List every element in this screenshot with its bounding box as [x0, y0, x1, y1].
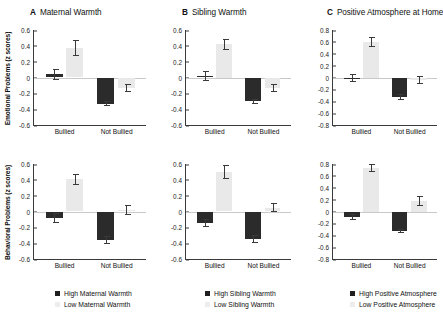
panel-a: AMaternal WarmthEmotional Problems (z sc… — [0, 0, 152, 282]
error-bar-low — [371, 37, 372, 48]
plot-area: 0.80.60.40.20-0.2-0.4-0.6-0.8 — [332, 164, 437, 260]
plot-wrapper: 0.60.40.20-0.2-0.4-0.6 — [185, 30, 291, 126]
legend-swatch-low-icon — [55, 302, 60, 307]
y-axis-tick: -0.2 — [19, 224, 34, 231]
panel-title-text: Positive Atmosphere at Home — [337, 8, 443, 17]
panel-b: BSibling Warmth0.60.40.20-0.2-0.4-0.6Bul… — [152, 0, 297, 282]
y-axis-tick: -0.4 — [318, 232, 333, 239]
y-axis-tick: 0.8 — [320, 161, 333, 168]
y-axis-tick: 0 — [178, 208, 186, 215]
plot-area: 0.60.40.20-0.2-0.4-0.6 — [185, 30, 291, 126]
x-axis-tick-label: Bullied — [55, 128, 75, 135]
y-axis-title-text: Emotional Problems (z scores) — [5, 31, 12, 124]
error-bar-low — [75, 40, 76, 56]
bar-group-bullied — [341, 164, 383, 259]
y-axis-tick: 0.4 — [173, 42, 186, 49]
y-axis-tick: -0.6 — [171, 122, 186, 129]
error-bar-high — [205, 219, 206, 227]
bar-high — [97, 78, 114, 104]
y-axis-tick: 0.2 — [21, 192, 34, 199]
x-axis-tick-label: Not Bullied — [394, 262, 426, 269]
y-axis-tick: -0.4 — [19, 240, 34, 247]
y-axis-tick: 0.2 — [21, 58, 34, 65]
y-axis-tick: 0.6 — [21, 27, 34, 34]
x-axis-labels: BulliedNot Bullied — [185, 128, 291, 140]
bar-group-not-bullied — [389, 164, 431, 259]
plot-area: 0.80.60.40.20-0.2-0.4-0.6-0.8 — [332, 30, 437, 126]
y-axis-tick: 0 — [26, 74, 34, 81]
y-axis-tick: 0.4 — [21, 42, 34, 49]
y-axis-tick: -0.6 — [171, 256, 186, 263]
y-axis-tick: -0.6 — [318, 244, 333, 251]
error-bar-high — [205, 71, 206, 81]
error-bar-low — [419, 76, 420, 84]
error-bar-high — [54, 69, 55, 80]
y-axis-tick: -0.4 — [171, 106, 186, 113]
panel-title-c: CPositive Atmosphere at Home — [327, 8, 443, 17]
legend-label: High Maternal Warmth — [64, 288, 132, 299]
y-axis-tick: 0 — [26, 208, 34, 215]
y-axis-tick: 0.4 — [320, 184, 333, 191]
y-axis-tick: 0.6 — [320, 38, 333, 45]
legend-item-high: High Maternal Warmth — [55, 288, 132, 299]
error-bar-low — [371, 164, 372, 172]
chart-a-behavioral: Behavioral Problems (z scores)0.60.40.20… — [0, 160, 152, 272]
chart-c-emotional: 0.80.60.40.20-0.2-0.4-0.6-0.8BulliedNot … — [297, 26, 443, 138]
chart-b-emotional: 0.60.40.20-0.2-0.4-0.6BulliedNot Bullied — [152, 26, 297, 138]
bar-group-not-bullied — [243, 164, 285, 259]
legend-panel-a: High Maternal WarmthLow Maternal Warmth — [55, 288, 132, 310]
y-axis-tick: -0.4 — [19, 106, 34, 113]
legend-item-high: High Sibling Warmth — [205, 288, 276, 299]
bar-group-bullied — [194, 164, 236, 259]
y-axis-tick: 0 — [178, 74, 186, 81]
x-axis-tick-label: Bullied — [351, 262, 371, 269]
x-axis-labels: BulliedNot Bullied — [33, 128, 146, 140]
legend-swatch-high-icon — [205, 291, 210, 296]
error-bar-high — [400, 94, 401, 100]
legend-label: High Positive Atmosphere — [359, 288, 437, 299]
y-axis-tick: 0 — [325, 74, 333, 81]
y-axis-tick: -0.2 — [318, 220, 333, 227]
error-bar-low — [273, 203, 274, 213]
error-bar-high — [352, 214, 353, 220]
error-bar-low — [126, 84, 127, 92]
y-axis-tick: -0.2 — [19, 90, 34, 97]
y-axis-tick: 0.2 — [320, 196, 333, 203]
legend-swatch-high-icon — [350, 291, 355, 296]
legend-item-high: High Positive Atmosphere — [350, 288, 437, 299]
y-axis-tick: 0.4 — [21, 176, 34, 183]
plot-area: 0.60.40.20-0.2-0.4-0.6 — [33, 164, 146, 260]
panel-title-text: Maternal Warmth — [40, 8, 102, 17]
chart-b-behavioral: 0.60.40.20-0.2-0.4-0.6BulliedNot Bullied — [152, 160, 297, 272]
y-axis-tick: 0.2 — [320, 62, 333, 69]
y-axis-tick: 0.4 — [320, 50, 333, 57]
y-axis-tick: 0.8 — [320, 27, 333, 34]
bar-group-not-bullied — [94, 164, 139, 259]
legend-panel-c: High Positive AtmosphereLow Positive Atm… — [350, 288, 437, 310]
error-bar-high — [106, 101, 107, 106]
legend-item-low: Low Maternal Warmth — [55, 299, 132, 310]
bar-group-bullied — [43, 164, 88, 259]
y-axis-tick: 0 — [325, 208, 333, 215]
plot-wrapper: 0.80.60.40.20-0.2-0.4-0.6-0.8 — [332, 164, 437, 260]
y-axis-tick: -0.2 — [171, 224, 186, 231]
bar-low — [363, 42, 379, 78]
legend-swatch-high-icon — [55, 291, 60, 296]
panel-letter: A — [30, 8, 36, 17]
chart-a-emotional: Emotional Problems (z scores)0.60.40.20-… — [0, 26, 152, 138]
bar-group-bullied — [341, 30, 383, 125]
error-bar-high — [400, 229, 401, 234]
y-axis-tick: -0.6 — [318, 110, 333, 117]
x-axis-tick-label: Not Bullied — [247, 128, 279, 135]
y-axis-title: Behavioral Problems (z scores) — [2, 164, 14, 260]
legend-swatch-low-icon — [205, 302, 210, 307]
y-axis-tick: -0.2 — [171, 90, 186, 97]
plot-area: 0.60.40.20-0.2-0.4-0.6 — [33, 30, 146, 126]
legend-label: Low Positive Atmosphere — [359, 299, 435, 310]
y-axis-tick: 0.6 — [173, 161, 186, 168]
legend-item-low: Low Positive Atmosphere — [350, 299, 437, 310]
x-axis-labels: BulliedNot Bullied — [332, 262, 437, 274]
x-axis-labels: BulliedNot Bullied — [332, 128, 437, 140]
error-bar-low — [126, 205, 127, 215]
legend-label: Low Maternal Warmth — [64, 299, 130, 310]
